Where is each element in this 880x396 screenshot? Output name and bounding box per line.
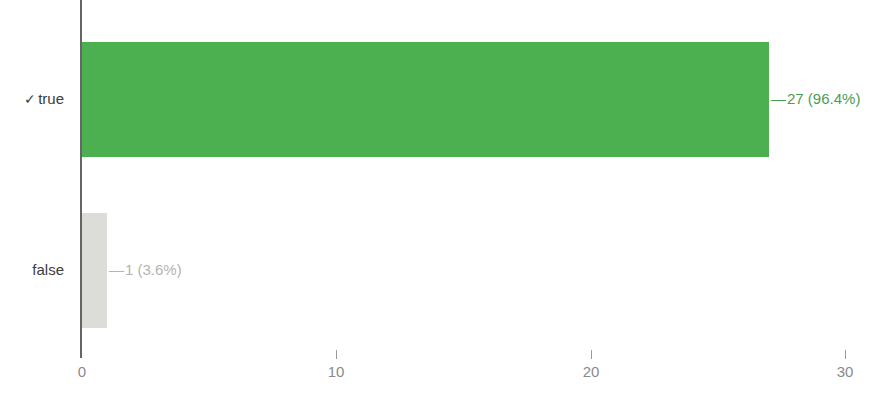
label-connector: — xyxy=(109,261,124,278)
bar-row: ✓true—27 (96.4%) xyxy=(0,42,880,157)
value-label-text: 1 (3.6%) xyxy=(125,261,182,278)
value-label-false: —1 (3.6%) xyxy=(109,261,182,278)
x-axis-tick xyxy=(591,350,592,359)
value-label-text: 27 (96.4%) xyxy=(787,90,860,107)
category-label-false: false xyxy=(0,261,64,278)
x-axis-tick xyxy=(845,350,846,359)
x-axis-tick-label: 10 xyxy=(306,363,366,380)
category-label-text: true xyxy=(38,90,64,107)
label-connector: — xyxy=(771,90,786,107)
bar-row: false—1 (3.6%) xyxy=(0,213,880,328)
x-axis-tick-label: 20 xyxy=(561,363,621,380)
x-axis-tick xyxy=(336,350,337,359)
bar-true[interactable] xyxy=(82,42,769,157)
check-icon: ✓ xyxy=(24,91,36,107)
category-label-text: false xyxy=(32,261,64,278)
bar-false[interactable] xyxy=(82,213,107,328)
value-label-true: —27 (96.4%) xyxy=(771,90,860,107)
bar-chart: ✓true—27 (96.4%)false—1 (3.6%) 0102030 xyxy=(0,0,880,396)
x-axis-tick-label: 30 xyxy=(815,363,875,380)
x-axis-tick-label: 0 xyxy=(52,363,112,380)
category-label-true: ✓true xyxy=(0,90,64,107)
